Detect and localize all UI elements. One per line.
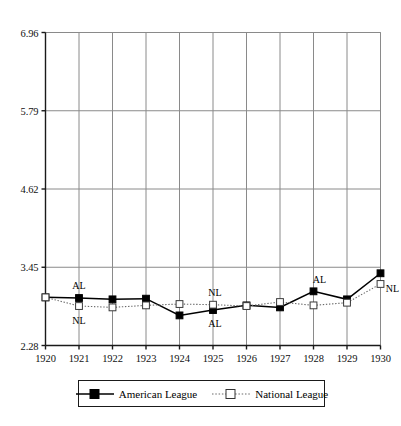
legend-swatch-national-league xyxy=(211,387,251,401)
data-point-marker xyxy=(310,302,317,309)
chart-legend: American League National League xyxy=(78,380,325,407)
y-axis-tick-label: 6.96 xyxy=(2,27,39,38)
annotation-label-nl: NL xyxy=(72,315,85,326)
x-axis-tick-label: 1924 xyxy=(169,353,190,364)
x-axis-tick-label: 1929 xyxy=(337,353,358,364)
legend-label-national-league: National League xyxy=(255,388,328,400)
x-axis-tick-label: 1925 xyxy=(203,353,224,364)
x-axis-tick-label: 1922 xyxy=(102,353,123,364)
legend-swatch-american-league xyxy=(75,387,115,401)
annotation-label-al: AL xyxy=(208,318,221,329)
data-point-marker xyxy=(143,302,150,309)
data-point-marker xyxy=(243,303,250,310)
y-axis-tick-label: 5.79 xyxy=(2,105,39,116)
x-axis-tick-label: 1923 xyxy=(136,353,157,364)
annotation-label-nl: NL xyxy=(386,282,399,293)
legend-item-american-league[interactable]: American League xyxy=(75,387,197,401)
legend-label-american-league: American League xyxy=(119,388,197,400)
y-axis-tick-label: 3.45 xyxy=(2,262,39,273)
data-point-marker xyxy=(377,281,384,288)
x-axis-tick-label: 1926 xyxy=(236,353,257,364)
annotation-label-al: AL xyxy=(72,280,85,291)
data-point-marker xyxy=(377,270,384,277)
data-point-marker xyxy=(310,288,317,295)
x-axis-tick-label: 1921 xyxy=(69,353,90,364)
annotation-label-al: AL xyxy=(313,274,326,285)
annotation-label-nl: NL xyxy=(208,286,221,297)
line-chart: 2.283.454.625.796.96 1920192119221923192… xyxy=(0,0,401,426)
data-point-marker xyxy=(76,295,83,302)
data-point-marker xyxy=(109,304,116,311)
data-point-marker xyxy=(42,294,49,301)
y-axis-tick-label: 4.62 xyxy=(2,184,39,195)
y-axis-tick-label: 2.28 xyxy=(2,340,39,351)
data-point-marker xyxy=(344,299,351,306)
x-axis-tick-label: 1927 xyxy=(270,353,291,364)
data-point-marker xyxy=(109,296,116,303)
data-point-marker xyxy=(277,299,284,306)
x-axis-tick-label: 1930 xyxy=(370,353,391,364)
data-point-marker xyxy=(210,301,217,308)
legend-item-national-league[interactable]: National League xyxy=(211,387,328,401)
data-point-marker xyxy=(76,303,83,310)
data-point-marker xyxy=(143,295,150,302)
data-point-marker xyxy=(176,312,183,319)
x-axis-tick-label: 1928 xyxy=(303,353,324,364)
data-point-marker xyxy=(176,301,183,308)
x-axis-tick-label: 1920 xyxy=(35,353,56,364)
